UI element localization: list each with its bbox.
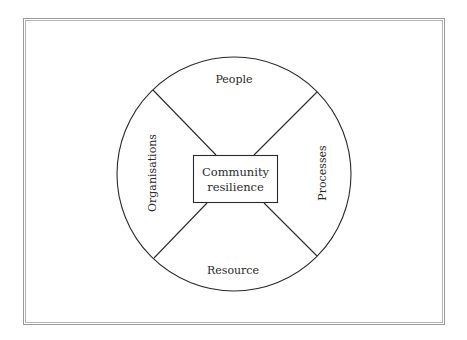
center-label-line2: resilience: [207, 180, 264, 194]
divider-lower-right: [264, 203, 317, 256]
divider-lower-left: [154, 203, 207, 258]
divider-upper-left: [153, 90, 216, 155]
segment-label-people: People: [215, 73, 252, 86]
segment-label-organisations: Organisations: [146, 134, 159, 212]
segment-label-processes: Processes: [316, 145, 329, 201]
segment-label-resource: Resource: [207, 264, 259, 277]
center-label-line1: Community: [202, 165, 270, 179]
divider-upper-right: [254, 92, 317, 155]
center-box: [194, 156, 278, 203]
resilience-diagram: Community resilience People Resource Org…: [0, 0, 467, 340]
